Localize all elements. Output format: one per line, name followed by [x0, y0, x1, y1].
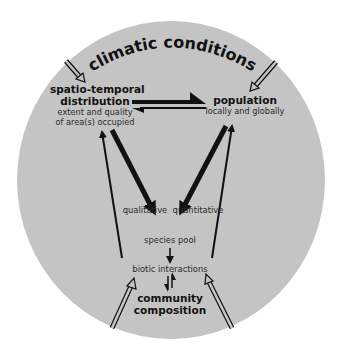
quantitative-label: quantitative — [172, 206, 224, 215]
population-title: population — [200, 95, 290, 107]
population-sub: locally and globally — [196, 107, 294, 116]
distribution-title-line1: spatio-temporal — [50, 84, 140, 96]
biotic-interactions-label: biotic interactions — [122, 265, 218, 274]
qualitative-label: qualitative — [120, 206, 170, 215]
diagram-canvas: climatic conditions — [0, 0, 337, 350]
community-title-line2: composition — [125, 305, 215, 317]
species-pool-label: species pool — [135, 236, 205, 245]
distribution-sub-line2: of area(s) occupied — [48, 118, 142, 127]
distribution-title-line2: distribution — [50, 96, 140, 108]
distribution-sub-line1: extent and quality — [48, 108, 142, 117]
community-title-line1: community — [125, 293, 215, 305]
